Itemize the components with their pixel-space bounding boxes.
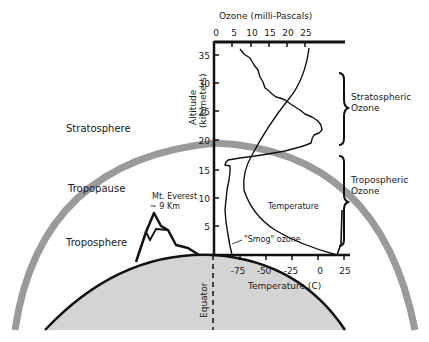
troposphere-label: Troposphere [65,237,127,248]
svg-text:10: 10 [246,28,258,38]
svg-text:15: 15 [264,28,275,38]
svg-text:10: 10 [199,194,211,204]
svg-text:20: 20 [282,28,294,38]
tropospheric-ozone-label-line2: Ozone [351,186,380,196]
temperature-curve-end [337,210,342,255]
svg-text:-50: -50 [257,266,272,276]
tropospheric-ozone-label-line1: Tropospheric [350,175,408,185]
stratospheric-bracket [339,73,348,145]
svg-text:15: 15 [199,166,210,176]
smog-ozone-label: "Smog" ozone [244,235,301,244]
temperature-axis-title: Temperature (C) [247,281,321,291]
altitude-axis-subtitle: (kilometers) [198,73,208,128]
svg-text:-75: -75 [231,266,246,276]
temperature-curve-label: Temperature [267,202,319,211]
svg-text:25: 25 [300,28,311,38]
svg-text:5: 5 [231,28,237,38]
everest-label-line2: ~ 9 Km [150,202,180,211]
svg-text:0: 0 [317,266,323,276]
equator-label: Equator [199,282,209,318]
ozone-atmosphere-diagram: Equator Mt. Everest ~ 9 Km Stratosphere … [0,0,429,342]
smog-leader-line [232,240,242,244]
tropospheric-bracket [339,156,348,246]
svg-text:5: 5 [204,222,210,232]
everest-snowline [146,229,168,240]
everest-label-line1: Mt. Everest [152,192,197,201]
svg-text:0: 0 [213,28,219,38]
stratosphere-label: Stratosphere [66,123,131,134]
ozone-axis-title: Ozone (milli-Pascals) [219,11,312,21]
svg-text:20: 20 [199,136,211,146]
tropopause-label: Tropopause [67,183,125,194]
ozone-tick-labels: 0 5 10 15 20 25 [213,28,312,38]
altitude-axis-title: Altitude [188,89,198,125]
svg-text:-25: -25 [284,266,299,276]
stratospheric-ozone-label-line2: Ozone [351,103,380,113]
stratospheric-ozone-label-line1: Stratospheric [351,92,411,102]
svg-text:25: 25 [339,266,350,276]
svg-text:35: 35 [199,51,210,61]
